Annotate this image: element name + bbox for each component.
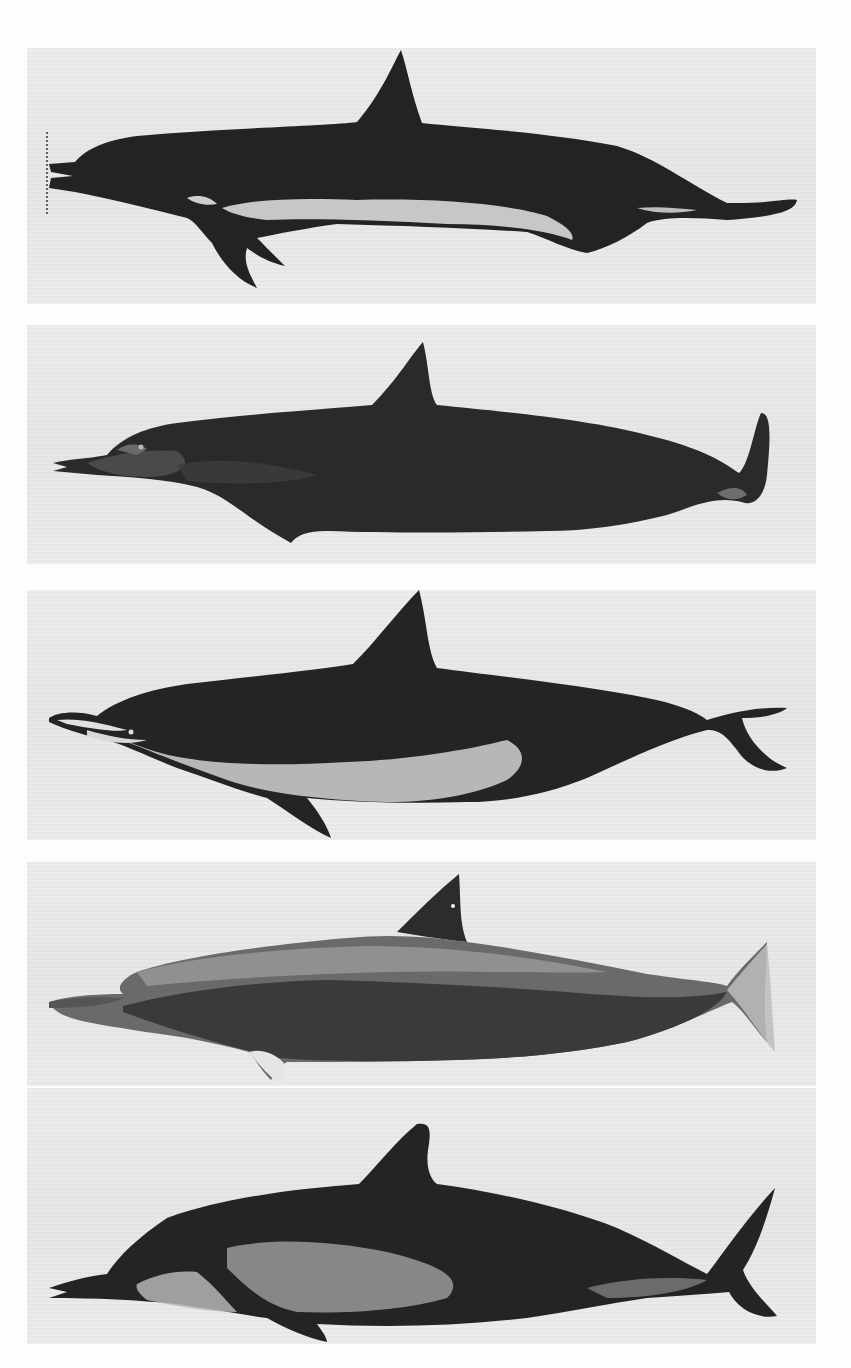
dolphin-silhouette-5 bbox=[27, 1088, 816, 1344]
photo-panel-5 bbox=[27, 1088, 816, 1344]
photo-panel-1 bbox=[27, 48, 816, 304]
dolphin-silhouette-2 bbox=[27, 325, 816, 564]
dolphin-silhouette-1 bbox=[27, 48, 816, 304]
photo-panel-2 bbox=[27, 325, 816, 564]
dolphin-silhouette-4 bbox=[27, 862, 816, 1086]
figure-page bbox=[0, 0, 851, 1368]
dolphin-silhouette-3 bbox=[27, 590, 816, 840]
photo-panel-4 bbox=[27, 862, 816, 1086]
figure-caption bbox=[40, 1356, 820, 1368]
photo-panel-3 bbox=[27, 590, 816, 840]
